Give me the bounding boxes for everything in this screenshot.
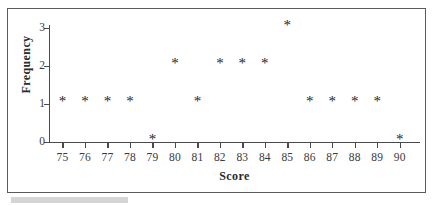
y-axis-title: Frequency xyxy=(19,22,34,108)
x-tick xyxy=(107,143,108,148)
data-point: * xyxy=(78,94,92,108)
data-point: * xyxy=(325,94,339,108)
x-tick xyxy=(197,143,198,148)
x-tick xyxy=(310,143,311,148)
x-tick xyxy=(287,143,288,148)
data-point: * xyxy=(190,94,204,108)
data-point: * xyxy=(55,94,69,108)
data-point: * xyxy=(123,94,137,108)
data-point: * xyxy=(168,56,182,70)
x-tick xyxy=(220,143,221,148)
data-point: * xyxy=(100,94,114,108)
x-tick xyxy=(85,143,86,148)
x-tick xyxy=(332,143,333,148)
x-tick xyxy=(265,143,266,148)
y-tick-label: 1 xyxy=(33,97,45,109)
x-tick xyxy=(175,143,176,148)
x-axis-title: Score xyxy=(49,169,420,184)
x-tick xyxy=(377,143,378,148)
data-point: * xyxy=(393,132,407,146)
data-point: * xyxy=(370,94,384,108)
data-point: * xyxy=(145,132,159,146)
x-tick xyxy=(242,143,243,148)
data-point: * xyxy=(303,94,317,108)
data-point: * xyxy=(280,18,294,32)
data-point: * xyxy=(235,56,249,70)
y-tick-label: 0 xyxy=(33,135,45,147)
data-point: * xyxy=(213,56,227,70)
data-point: * xyxy=(258,56,272,70)
x-tick xyxy=(130,143,131,148)
y-tick-label: 2 xyxy=(33,59,45,71)
y-axis-line xyxy=(49,25,50,143)
data-point: * xyxy=(348,94,362,108)
plot-area: 75767778798081828384858687888990 0123 **… xyxy=(8,9,427,194)
x-axis-line xyxy=(49,142,420,143)
y-tick-label: 3 xyxy=(33,21,45,33)
x-tick-label: 90 xyxy=(385,151,415,163)
figure-caption-bar xyxy=(11,197,128,203)
figure-frame: 75767778798081828384858687888990 0123 **… xyxy=(7,8,426,193)
x-tick xyxy=(62,143,63,148)
x-tick xyxy=(355,143,356,148)
